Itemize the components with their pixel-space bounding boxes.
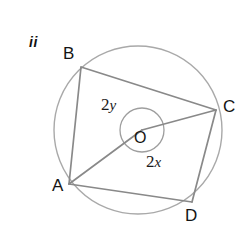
centre-label-O: O bbox=[134, 130, 146, 146]
angle-2y-variable: y bbox=[110, 97, 117, 113]
vertex-label-A: A bbox=[52, 177, 63, 194]
geometry-figure: ii B C D A O 2y 2x bbox=[0, 0, 251, 233]
vertex-label-B: B bbox=[63, 45, 74, 62]
chord-DA bbox=[69, 184, 192, 202]
figure-index-label: ii bbox=[29, 35, 38, 49]
vertex-label-C: C bbox=[223, 98, 235, 115]
angle-label-2x: 2x bbox=[146, 153, 161, 170]
vertex-label-D: D bbox=[185, 207, 197, 224]
angle-2x-coefficient: 2 bbox=[146, 152, 155, 171]
angle-2y-coefficient: 2 bbox=[101, 95, 110, 114]
chord-AB bbox=[69, 67, 81, 184]
angle-label-2y: 2y bbox=[101, 96, 116, 113]
radius-OC bbox=[142, 110, 216, 130]
angle-2x-variable: x bbox=[155, 154, 162, 170]
chord-CD bbox=[192, 110, 216, 202]
radius-OA bbox=[69, 130, 142, 184]
